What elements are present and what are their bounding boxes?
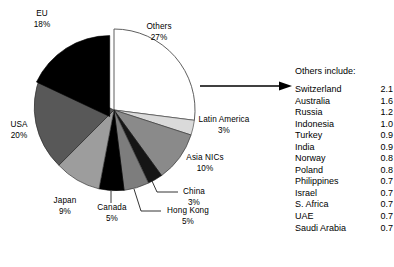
others-include-value: 0.7 [375, 188, 393, 200]
others-include-country: Turkey [295, 130, 322, 142]
pie-label-latin-america-name: Latin America [199, 115, 250, 124]
others-include-value: 0.9 [375, 130, 393, 142]
pie-label-japan: Japan 9% [46, 196, 84, 217]
pie-label-asia-nics: Asia NICs 10% [178, 153, 232, 174]
pie-label-japan-name: Japan [54, 196, 77, 205]
others-include-country: Norway [295, 153, 326, 165]
others-include-row: Poland0.8 [295, 165, 393, 177]
others-include-country: Australia [295, 96, 330, 108]
others-include-country: Poland [295, 165, 323, 177]
others-include-row: India0.9 [295, 142, 393, 154]
pie-label-others-value: 27% [138, 33, 180, 44]
pie-label-japan-value: 9% [46, 207, 84, 218]
others-include-title: Others include: [295, 66, 393, 77]
others-include-country: Switzerland [295, 84, 342, 96]
pie-label-eu-value: 18% [22, 20, 62, 31]
others-include-row: S. Africa0.7 [295, 199, 393, 211]
others-include-value: 0.7 [375, 211, 393, 223]
others-include-country: UAE [295, 211, 314, 223]
others-include-country: Indonesia [295, 119, 334, 131]
others-include-value: 0.8 [375, 165, 393, 177]
others-include-row: UAE0.7 [295, 211, 393, 223]
others-include-value: 0.8 [375, 153, 393, 165]
others-include-country: Russia [295, 107, 323, 119]
pie-label-latin-america-value: 3% [188, 126, 260, 137]
others-include-row: Norway0.8 [295, 153, 393, 165]
others-include-row: Indonesia1.0 [295, 119, 393, 131]
pie-label-hong-kong-value: 5% [159, 217, 217, 228]
others-include-list: Switzerland2.1Australia1.6Russia1.2Indon… [295, 84, 393, 234]
others-include-value: 0.7 [375, 223, 393, 235]
pie-label-hong-kong: Hong Kong 5% [159, 206, 217, 227]
pie-label-others-name: Others [146, 22, 171, 31]
pie-label-china: China 3% [176, 187, 212, 208]
pie-label-canada-name: Canada [97, 203, 126, 212]
pie-label-canada-value: 5% [92, 214, 132, 225]
pie-label-hong-kong-name: Hong Kong [167, 206, 209, 215]
pie-label-usa-name: USA [10, 120, 27, 129]
others-include-row: Turkey0.9 [295, 130, 393, 142]
others-include-row: Philippines0.7 [295, 176, 393, 188]
others-include-value: 0.7 [375, 199, 393, 211]
others-include-country: Saudi Arabia [295, 223, 346, 235]
pie-label-usa-value: 20% [2, 131, 36, 142]
pie-chart-figure: EU 18% Others 27% Latin America 3% Asia … [0, 0, 394, 267]
others-include-country: Israel [295, 188, 317, 200]
pie-label-eu: EU 18% [22, 9, 62, 30]
others-include-value: 1.2 [375, 107, 393, 119]
pie-label-asia-nics-value: 10% [178, 164, 232, 175]
pie-label-others: Others 27% [138, 22, 180, 43]
others-include-row: Saudi Arabia0.7 [295, 223, 393, 235]
others-include-value: 1.6 [375, 96, 393, 108]
others-arrow [200, 82, 292, 91]
others-include-row: Australia1.6 [295, 96, 393, 108]
pie-label-usa: USA 20% [2, 120, 36, 141]
others-include-country: S. Africa [295, 199, 329, 211]
leader-line-china [152, 181, 178, 192]
others-include-country: India [295, 142, 315, 154]
others-include-value: 0.7 [375, 176, 393, 188]
others-include-value: 1.0 [375, 119, 393, 131]
pie-label-china-name: China [183, 187, 205, 196]
others-include-panel: Others include: Switzerland2.1Australia1… [295, 66, 393, 234]
others-include-row: Switzerland2.1 [295, 84, 393, 96]
others-include-country: Philippines [295, 176, 339, 188]
pie-label-asia-nics-name: Asia NICs [186, 153, 223, 162]
pie-label-eu-name: EU [36, 9, 48, 18]
pie-label-latin-america: Latin America 3% [188, 115, 260, 136]
others-include-value: 0.9 [375, 142, 393, 154]
others-include-row: Russia1.2 [295, 107, 393, 119]
pie-label-canada: Canada 5% [92, 203, 132, 224]
others-include-row: Israel0.7 [295, 188, 393, 200]
others-include-value: 2.1 [375, 84, 393, 96]
